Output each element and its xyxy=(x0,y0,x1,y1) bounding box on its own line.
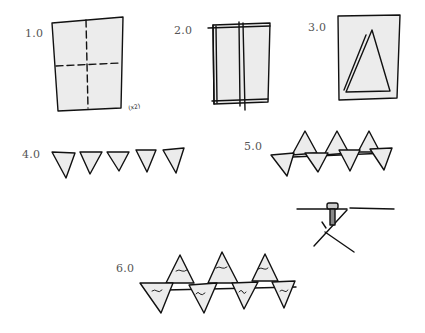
folding-sketch xyxy=(0,0,425,333)
step-2-figure xyxy=(208,22,270,110)
step-3-figure xyxy=(338,15,400,100)
step-6-figure xyxy=(140,252,296,313)
step-5-pin-detail xyxy=(297,203,394,252)
step-5-figure xyxy=(271,131,392,176)
step-1-figure xyxy=(52,17,123,111)
step-4-figure xyxy=(52,148,184,178)
